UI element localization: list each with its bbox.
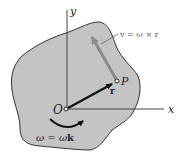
origin-marker: [64, 107, 68, 111]
rigid-body-diagram: y x v = ω × r r P O ω = ωk: [0, 0, 182, 164]
velocity-equation: v = ω × r: [119, 30, 159, 39]
position-vector-label: r: [110, 86, 115, 96]
point-p-label: P: [120, 75, 129, 88]
y-axis-label: y: [69, 5, 77, 18]
origin-label: O: [53, 103, 63, 117]
x-axis-label: x: [168, 103, 175, 116]
point-p-marker: [115, 79, 119, 83]
angular-velocity-equation: ω = ωk: [36, 132, 75, 143]
